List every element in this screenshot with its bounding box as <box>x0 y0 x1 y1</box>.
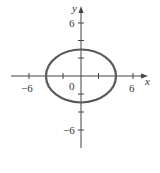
y-axis-arrow-icon <box>79 6 84 13</box>
ellipse-plot: y x −6 6 0 6 −6 <box>0 0 160 173</box>
y-tick-label-neg6: −6 <box>63 124 75 136</box>
x-tick-label-6: 6 <box>129 82 135 94</box>
x-axis-label: x <box>144 75 150 87</box>
y-axis-label: y <box>71 2 77 14</box>
y-tick-label-6: 6 <box>69 17 75 29</box>
origin-label: 0 <box>69 80 75 92</box>
x-tick-label-neg6: −6 <box>21 82 33 94</box>
